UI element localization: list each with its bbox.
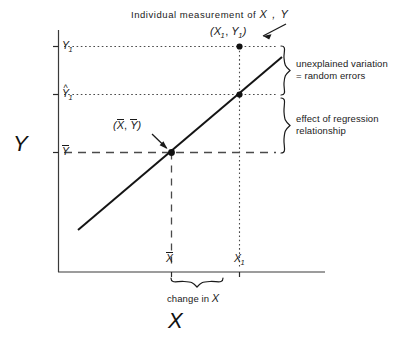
y-axis-ticks [53,47,59,153]
axis-label-y: Y [13,131,28,158]
arrow-to-observed-point [263,24,286,39]
point-label-mean: (X, Y) [113,119,141,132]
annotation-unexplained-variation: unexplained variation = random errors [296,58,388,81]
axis-label-x: X [168,308,183,335]
title-annotation-text: Individual measurement of [131,9,256,20]
regression-line [78,57,282,230]
y-tick-label-yhat1: ^Y1 [62,87,73,100]
y-tick-label-y1: Y1 [62,39,73,52]
x-tick-label-x1: X1 [234,252,245,265]
annotation-change-in-x: change in X [167,292,219,305]
annotation-regression-effect-line1: effect of regression [296,113,379,125]
regression-decomposition-diagram: Individual measurement of X , Y (X1, Y1)… [0,0,419,342]
annotation-regression-effect: effect of regression relationship [296,113,379,136]
brace-change-in-x [171,278,223,287]
annotation-regression-effect-line2: relationship [296,125,379,137]
x-axis-ticks [172,272,240,277]
axes-group [58,30,325,272]
title-annotation: Individual measurement of X , Y [131,8,289,21]
annotation-change-in-x-var: X [212,292,219,304]
brace-regression-effect [281,98,290,153]
data-point-fitted [236,91,242,97]
data-point-means [168,149,175,156]
annotation-unexplained-variation-line1: unexplained variation [296,58,388,70]
annotation-unexplained-variation-line2: = random errors [296,70,388,82]
arrow-to-mean-point [152,134,168,149]
brace-unexplained-variation [281,46,290,95]
y-tick-label-ybar: Y [62,145,69,158]
annotation-change-in-x-text: change in [167,293,209,304]
x-tick-label-xbar: X [166,252,173,265]
caret-icon: ^ [63,83,67,94]
data-point-observed [236,43,242,49]
point-label-observed: (X1, Y1) [210,25,247,38]
title-annotation-vars: X , Y [259,8,289,20]
